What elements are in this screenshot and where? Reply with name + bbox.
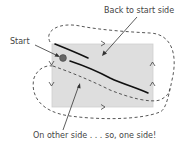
start-marker bbox=[60, 55, 67, 62]
label-start: Start bbox=[10, 38, 30, 46]
label-on-other-side: On other side . . . so, one side! bbox=[33, 132, 156, 140]
label-back-to-start-side: Back to start side bbox=[104, 7, 174, 15]
surface-rectangle bbox=[52, 44, 153, 107]
one-side-diagram bbox=[0, 0, 192, 150]
